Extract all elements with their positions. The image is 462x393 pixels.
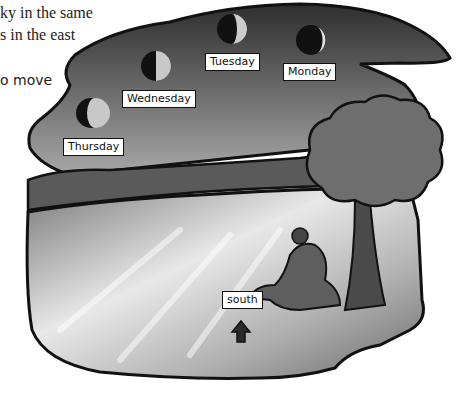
moon-wednesday xyxy=(141,51,171,81)
moon-thursday xyxy=(76,98,110,128)
label-monday: Monday xyxy=(283,63,336,81)
label-tuesday: Tuesday xyxy=(205,53,260,71)
moon-tuesday xyxy=(217,14,247,44)
label-south: south xyxy=(222,291,263,309)
label-wednesday: Wednesday xyxy=(122,90,196,108)
label-thursday: Thursday xyxy=(63,138,124,156)
moon-monday xyxy=(296,25,326,55)
